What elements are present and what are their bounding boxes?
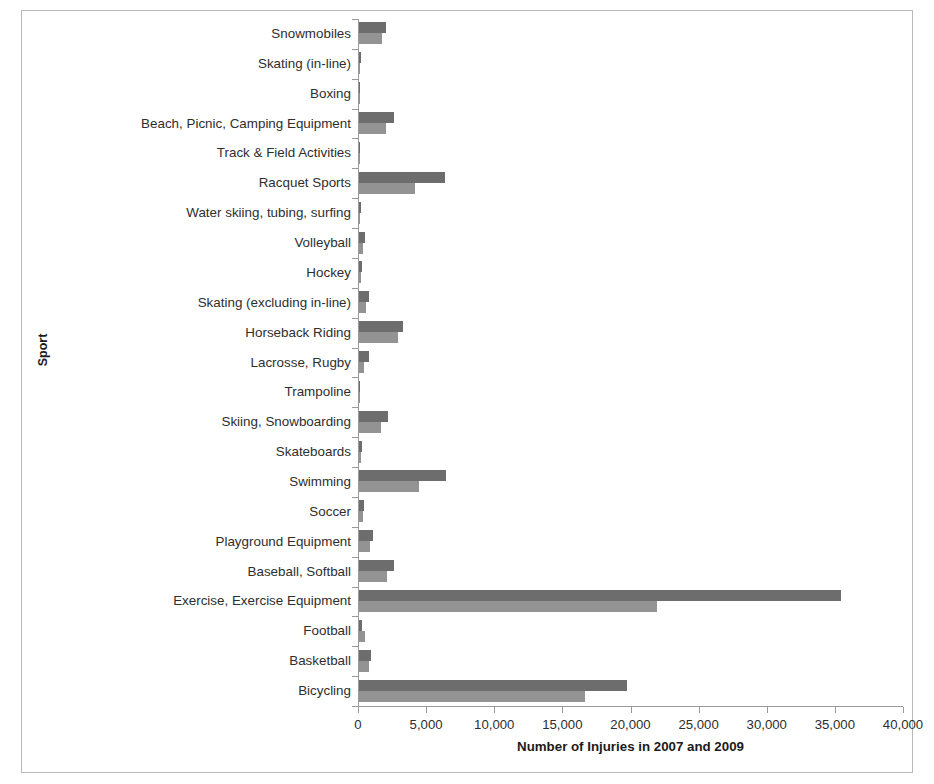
- y-axis-tick: [352, 497, 358, 498]
- category-label: Boxing: [38, 86, 351, 101]
- y-axis-tick: [352, 407, 358, 408]
- category-label: Hockey: [38, 265, 351, 280]
- bar-2007: [359, 202, 361, 213]
- category-label: Playground Equipment: [38, 534, 351, 549]
- x-axis-tick-label: 15,000: [542, 717, 582, 732]
- y-axis-tick: [352, 437, 358, 438]
- bar-2009: [359, 392, 360, 403]
- category-labels: SnowmobilesSkating (in-line)BoxingBeach,…: [38, 19, 351, 706]
- bar-2009: [359, 422, 381, 433]
- category-label: Water skiing, tubing, surfing: [38, 205, 351, 220]
- y-axis-tick: [352, 138, 358, 139]
- x-axis-tick-label: 35,000: [815, 717, 855, 732]
- category-label: Bicycling: [38, 683, 351, 698]
- bar-2007: [359, 470, 446, 481]
- bar-2007: [359, 232, 365, 243]
- category-label: Basketball: [38, 653, 351, 668]
- y-axis-tick: [352, 377, 358, 378]
- category-label: Snowmobiles: [38, 26, 351, 41]
- category-label: Beach, Picnic, Camping Equipment: [38, 116, 351, 131]
- x-axis-tick-label: 5,000: [410, 717, 443, 732]
- y-axis-tick: [352, 318, 358, 319]
- category-label: Skateboards: [38, 444, 351, 459]
- bar-2007: [359, 52, 361, 63]
- bar-2007: [359, 112, 394, 123]
- category-label: Horseback Riding: [38, 325, 351, 340]
- y-axis-tick: [352, 527, 358, 528]
- bar-2009: [359, 93, 360, 104]
- x-axis-tick-label: 40,000: [883, 717, 923, 732]
- category-label: Skiing, Snowboarding: [38, 414, 351, 429]
- bar-2007: [359, 22, 386, 33]
- y-axis-tick: [352, 19, 358, 20]
- plot-area: SnowmobilesSkating (in-line)BoxingBeach,…: [358, 19, 903, 706]
- x-axis-tick: [767, 707, 768, 713]
- y-axis-tick: [352, 616, 358, 617]
- y-axis-tick: [352, 288, 358, 289]
- chart-frame: Sport SnowmobilesSkating (in-line)Boxing…: [21, 10, 913, 773]
- category-label: Volleyball: [38, 235, 351, 250]
- bar-2007: [359, 650, 371, 661]
- bar-2007: [359, 142, 360, 153]
- bar-2009: [359, 601, 657, 612]
- bar-2007: [359, 680, 627, 691]
- bar-2007: [359, 590, 841, 601]
- category-label: Football: [38, 623, 351, 638]
- x-axis-tick-label: 30,000: [747, 717, 787, 732]
- category-label: Lacrosse, Rugby: [38, 355, 351, 370]
- y-axis-tick: [352, 587, 358, 588]
- bar-2009: [359, 213, 360, 224]
- bar-2007: [359, 381, 360, 392]
- x-axis-tick: [699, 707, 700, 713]
- bar-2007: [359, 172, 445, 183]
- bar-2007: [359, 291, 369, 302]
- x-axis-tick-label: 25,000: [678, 717, 718, 732]
- category-label: Racquet Sports: [38, 175, 351, 190]
- bar-2009: [359, 452, 361, 463]
- y-axis-tick: [352, 49, 358, 50]
- x-axis-tick: [562, 707, 563, 713]
- x-axis-tick: [835, 707, 836, 713]
- bar-2007: [359, 82, 360, 93]
- category-label: Track & Field Activities: [38, 145, 351, 160]
- category-label: Swimming: [38, 474, 351, 489]
- bar-2009: [359, 302, 366, 313]
- bar-2007: [359, 321, 403, 332]
- bar-2007: [359, 560, 394, 571]
- bar-2009: [359, 571, 387, 582]
- y-axis-tick: [352, 557, 358, 558]
- category-label: Baseball, Softball: [38, 564, 351, 579]
- y-axis-tick: [352, 198, 358, 199]
- bar-2009: [359, 153, 360, 164]
- category-label: Exercise, Exercise Equipment: [38, 593, 351, 608]
- x-axis-tick-label: 0: [354, 717, 361, 732]
- bar-2009: [359, 691, 585, 702]
- bar-2009: [359, 631, 365, 642]
- bar-2009: [359, 63, 360, 74]
- bar-2007: [359, 500, 364, 511]
- bar-2009: [359, 541, 370, 552]
- y-axis-tick: [352, 79, 358, 80]
- bar-2007: [359, 441, 362, 452]
- bar-2009: [359, 511, 363, 522]
- y-axis-tick: [352, 228, 358, 229]
- x-axis-tick-label: 20,000: [610, 717, 650, 732]
- bar-2009: [359, 243, 363, 254]
- category-label: Trampoline: [38, 384, 351, 399]
- category-label: Soccer: [38, 504, 351, 519]
- bar-2007: [359, 620, 362, 631]
- bar-2007: [359, 351, 369, 362]
- bar-2009: [359, 362, 364, 373]
- x-axis-tick: [631, 707, 632, 713]
- y-axis-tick: [352, 168, 358, 169]
- category-label: Skating (in-line): [38, 56, 351, 71]
- bar-2007: [359, 411, 388, 422]
- y-axis-tick: [352, 109, 358, 110]
- y-axis-tick: [352, 258, 358, 259]
- x-axis-tick: [358, 707, 359, 713]
- category-label: Skating (excluding in-line): [38, 295, 351, 310]
- bar-2009: [359, 33, 382, 44]
- x-axis-tick: [426, 707, 427, 713]
- x-axis-tick: [494, 707, 495, 713]
- y-axis-tick: [352, 467, 358, 468]
